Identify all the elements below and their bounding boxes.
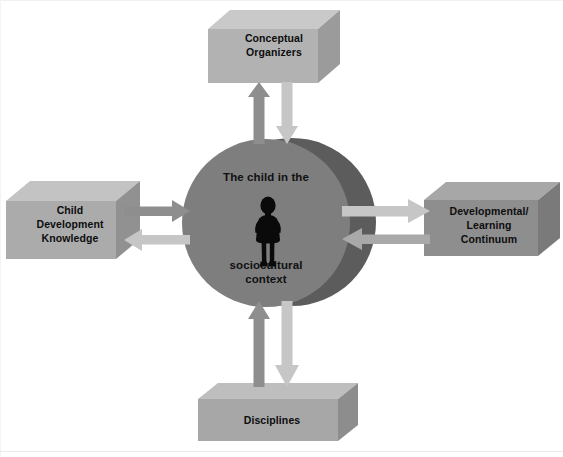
frame-bottom-edge: [0, 451, 563, 452]
center-label-bottom-line2: context: [182, 272, 350, 286]
arrow-left-to-child-development-knowledge: [124, 229, 190, 251]
frame-left-edge: [0, 0, 1, 457]
frame-top-edge: [0, 0, 563, 1]
node-conceptual-organizers[interactable]: [208, 10, 340, 90]
arrow-down-to-center: [276, 82, 298, 144]
diagram-canvas: The child in the sociocultural context: [0, 0, 563, 457]
arrow-left-to-center: [342, 228, 430, 250]
node-child-development-knowledge[interactable]: [6, 181, 140, 265]
arrow-up-to-conceptual-organizers: [248, 82, 270, 144]
arrow-right-to-center: [124, 200, 190, 222]
connector-right-arrow-pair: [342, 199, 430, 251]
child-silhouette-icon: [248, 196, 288, 268]
node-developmental-learning-continuum[interactable]: [424, 182, 560, 266]
arrow-down-to-disciplines: [275, 301, 299, 387]
arrow-right-to-developmental-learning-continuum: [342, 199, 430, 223]
connector-bottom-arrow-pair: [243, 301, 303, 387]
arrow-up-to-center: [248, 301, 270, 387]
connector-left-arrow-pair: [124, 199, 190, 251]
node-disciplines[interactable]: [198, 383, 358, 445]
center-label-top: The child in the: [182, 170, 350, 184]
connector-top-arrow-pair: [243, 82, 303, 144]
